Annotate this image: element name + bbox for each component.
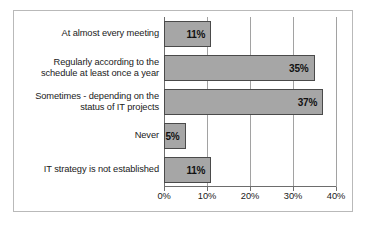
x-tick-mark [336, 187, 337, 191]
category-label: At almost every meeting [26, 28, 159, 40]
bar[interactable]: 11% [164, 21, 211, 47]
bar[interactable]: 5% [164, 123, 186, 149]
category-label: IT strategy is not established [26, 164, 159, 176]
bar-value-label: 11% [186, 29, 210, 40]
chart-figure: At almost every meetingRegularly accordi… [13, 10, 353, 212]
bar-chart: At almost every meetingRegularly accordi… [14, 11, 354, 213]
category-label: Regularly according to the schedule at l… [26, 57, 159, 80]
bar[interactable]: 35% [164, 55, 315, 81]
x-tick-mark [207, 187, 208, 191]
bar-value-label: 35% [289, 63, 313, 74]
bar[interactable]: 37% [164, 89, 323, 115]
x-tick-mark [250, 187, 251, 191]
category-axis-labels: At almost every meetingRegularly accordi… [26, 17, 162, 187]
bar[interactable]: 11% [164, 157, 211, 183]
plot-area: 11%35%37%5%11% [164, 17, 336, 187]
category-label: Sometimes - depending on the status of I… [26, 91, 159, 114]
bar-row: 5% [164, 123, 336, 149]
x-tick-label: 0% [157, 191, 170, 201]
bar-value-label: 37% [298, 97, 322, 108]
x-tick-label: 20% [241, 191, 259, 201]
x-tick-label: 10% [198, 191, 216, 201]
bar-value-label: 11% [186, 165, 210, 176]
x-tick-mark [164, 187, 165, 191]
bar-series: 11%35%37%5%11% [164, 17, 336, 187]
x-tick-label: 30% [284, 191, 302, 201]
bar-value-label: 5% [165, 131, 184, 142]
bar-row: 11% [164, 157, 336, 183]
x-axis-tick-labels: 0%10%20%30%40% [164, 191, 349, 207]
bar-row: 37% [164, 89, 336, 115]
bar-row: 11% [164, 21, 336, 47]
category-label: Never [26, 130, 159, 142]
x-tick-mark [293, 187, 294, 191]
gridline [336, 17, 337, 187]
x-tick-label: 40% [327, 191, 345, 201]
bar-row: 35% [164, 55, 336, 81]
